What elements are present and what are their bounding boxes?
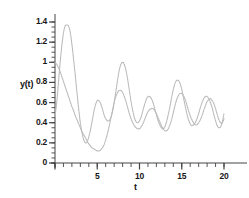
- y-tick-label: 0: [8, 157, 47, 167]
- y-tick-label: 1: [8, 56, 47, 66]
- y-tick-label: 0.6: [8, 97, 47, 107]
- y-tick-label: 0.2: [8, 137, 47, 147]
- x-tick-label: 20: [210, 171, 238, 181]
- chart-container: y(t) t 00.20.40.60.811.21.4 5101520: [0, 0, 249, 198]
- chart-line-1: [55, 25, 224, 143]
- x-tick-label: 5: [83, 171, 111, 181]
- x-tick-label: 15: [168, 171, 196, 181]
- y-tick-label: 0.4: [8, 117, 47, 127]
- y-tick-label: 1.4: [8, 16, 47, 26]
- x-tick-label: 10: [126, 171, 154, 181]
- y-tick-label: 1.2: [8, 36, 47, 46]
- x-axis-label: t: [134, 182, 137, 192]
- chart-line-2: [55, 62, 224, 151]
- y-tick-label: 0.8: [8, 76, 47, 86]
